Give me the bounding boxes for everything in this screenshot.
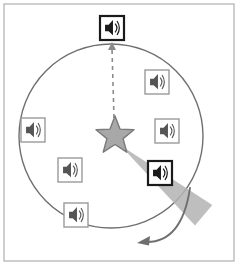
speaker-lower-right-active[interactable] — [148, 161, 172, 185]
speaker-right[interactable] — [155, 119, 179, 143]
speaker-top-highlighted[interactable] — [100, 16, 124, 40]
speaker-lower-left[interactable] — [58, 158, 82, 182]
figure-root: Sound source rotation diagram — [0, 0, 238, 265]
sound-rotation-diagram — [0, 0, 238, 265]
speaker-left[interactable] — [21, 118, 45, 142]
speaker-upper-right[interactable] — [145, 70, 169, 94]
speaker-bottom-left[interactable] — [64, 203, 88, 227]
